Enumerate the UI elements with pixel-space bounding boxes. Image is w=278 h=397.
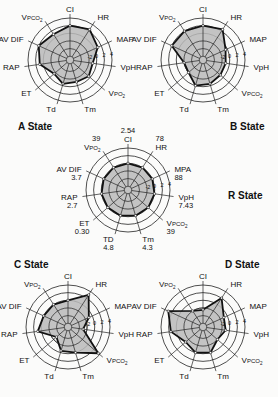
data-point (74, 351, 76, 353)
axis-label: MAP (249, 302, 266, 311)
scale-tick: -2 (87, 54, 92, 60)
data-point (38, 45, 40, 47)
axis-label: HR (156, 143, 168, 152)
axis-label: VPO2 (24, 280, 41, 290)
data-point (183, 30, 185, 32)
data-point (151, 178, 153, 180)
axis-value: 0.30 (75, 227, 90, 236)
data-point (202, 24, 204, 26)
axis-value: 78 (156, 134, 164, 143)
data-point (224, 48, 226, 50)
scale-tick: -2 (220, 321, 225, 327)
axis-label: RAP (1, 330, 17, 339)
data-point (97, 46, 99, 48)
axis-value: 3.7 (71, 173, 81, 182)
scale-tick: 0 (228, 320, 231, 326)
axis-value: 4.3 (142, 243, 152, 252)
axis-label: VPO2 (159, 13, 176, 23)
axis-label: Tm (217, 105, 229, 114)
state-title: B State (230, 121, 265, 132)
axis-label: VPCO2 (107, 356, 128, 366)
axis-label: VpH (120, 63, 136, 72)
axis-label: RAP (3, 63, 19, 72)
data-point (60, 350, 62, 352)
data-point (224, 329, 226, 331)
axis-label: VpH (118, 330, 134, 339)
data-point (67, 299, 69, 301)
axis-label: Tm (217, 372, 229, 381)
data-point (216, 338, 218, 340)
axis-label: HR (231, 13, 243, 22)
data-point (75, 81, 77, 83)
axis-label: MAP (114, 302, 131, 311)
scale-tick: 2 (101, 319, 104, 325)
data-point (153, 193, 155, 195)
axis-label: ET (154, 89, 164, 98)
data-point (52, 303, 54, 305)
radar-chart-d-state: -2024CIHRMAPVpHVPCO2TmTdETRAPAV DIFVPO2D… (131, 259, 269, 381)
scale-tick: 0 (153, 183, 156, 189)
data-point (42, 315, 44, 317)
data-point (55, 336, 57, 338)
scale-tick: 2 (103, 52, 106, 58)
scale-tick: 4 (243, 318, 246, 324)
radar-chart-b-state: -2024CIHRMAPVpHVPCO2TmTdETRAPAV DIFVPO2B… (131, 5, 269, 132)
radar-chart-c-state: -2024CIHRMAPVpHVPCO2TmTdETRAPAV DIFVPO2C… (0, 259, 134, 381)
data-point (107, 206, 109, 208)
axis-label: Tm (82, 372, 94, 381)
axis-label: RAP (136, 63, 152, 72)
data-point (88, 28, 90, 30)
radar-figure: -2024CIHRMAPVpHVPO2TmTdETRAPAV DIFVPCO2A… (0, 0, 278, 397)
data-point (141, 166, 143, 168)
axis-value: 7.43 (178, 201, 193, 210)
axis-value: 88 (174, 173, 182, 182)
data-point (219, 74, 221, 76)
axis-label: Td (179, 372, 188, 381)
state-title: R State (228, 190, 263, 201)
axis-label: CI (199, 5, 207, 14)
axis-label: VPO2 (109, 89, 126, 99)
data-point (183, 62, 185, 64)
axis-label: AV DIF (0, 302, 22, 311)
axis-label: ET (19, 356, 29, 365)
data-point (100, 193, 102, 195)
scale-tick: 0 (95, 53, 98, 59)
data-point (223, 316, 225, 318)
scale-tick: 0 (93, 320, 96, 326)
axis-value: 4.8 (103, 243, 113, 252)
data-point (147, 206, 149, 208)
axis-label: ET (154, 356, 164, 365)
data-polygon (168, 298, 225, 353)
data-point (191, 310, 193, 312)
data-point (91, 62, 93, 64)
axis-label: RAP (136, 330, 152, 339)
data-point (112, 166, 114, 168)
state-title: A State (18, 121, 53, 132)
data-point (194, 84, 196, 86)
axis-value: 39 (92, 134, 100, 143)
data-point (221, 28, 223, 30)
data-point (209, 83, 211, 85)
axis-label: VpH (253, 63, 269, 72)
axis-label: Tm (84, 105, 96, 114)
axis-label: HR (231, 280, 243, 289)
data-point (88, 75, 90, 77)
axis-label: AV DIF (131, 302, 156, 311)
axis-label: AV DIF (0, 35, 24, 44)
data-point (82, 328, 84, 330)
data-point (194, 351, 196, 353)
state-title: C State (14, 259, 49, 270)
scale-tick: 0 (228, 53, 231, 59)
radar-chart-r-state: -2024CI2.54HR78MPA88VpH7.43VPCO239Tm4.3T… (56, 126, 262, 252)
axis-label: CI (199, 272, 207, 281)
axis-value: 2.7 (67, 201, 77, 210)
axis-label: Td (44, 372, 53, 381)
axis-label: VPCO2 (242, 89, 263, 99)
scale-tick: -2 (145, 184, 150, 190)
axis-label: MAP (249, 35, 266, 44)
axis-label: VPO2 (84, 143, 101, 153)
data-point (53, 73, 55, 75)
scale-tick: -2 (85, 321, 90, 327)
radar-chart-a-state: -2024CIHRMAPVpHVPO2TmTdETRAPAV DIFVPCO2A… (0, 5, 136, 132)
axis-label: HR (96, 280, 108, 289)
